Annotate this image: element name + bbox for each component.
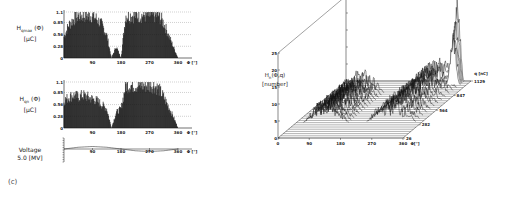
hqn-y-label: Hqn (Φ) [μC] [2, 95, 58, 114]
z-tick-label: 5 [274, 119, 277, 124]
back-diagonal [278, 0, 346, 53]
y-tick-label: 0.56 [53, 102, 63, 107]
surface-chart: 0510152025090180270360Φ[°]26282564847112… [280, 0, 527, 170]
x-axis-label: Φ[°] [410, 141, 419, 146]
x-tick-label: 180 [117, 130, 126, 135]
z-tick-label: 20 [271, 68, 277, 73]
y-axis-label: q [nC] [474, 71, 488, 76]
y-tick-label: 1.1 [56, 10, 63, 15]
x-tick-label: 180 [336, 141, 345, 146]
y-tick-label: 282 [422, 122, 431, 127]
z-tick-label: 10 [271, 102, 277, 107]
y-tick-label: 847 [457, 93, 466, 98]
y-tick-label: 0.28 [53, 44, 63, 49]
x-tick-label: 270 [368, 141, 377, 146]
x-tick-label: 90 [306, 141, 312, 146]
hqn-chart: 00.280.560.851.190180270360Φ [°] [60, 78, 230, 136]
x-tick-label: 270 [145, 130, 154, 135]
y-tick-label: 0.85 [53, 90, 63, 95]
x-tick-label: 360 [174, 130, 183, 135]
x-tick-label: 360 [399, 141, 408, 146]
x-tick-label: 0 [277, 141, 280, 146]
x-tick-label: 270 [145, 149, 154, 154]
x-tick-label: 90 [90, 149, 96, 154]
y-tick-label: 1.1 [56, 80, 63, 85]
hqmax-chart: 00.280.560.851.190180270360Φ [°] [60, 8, 230, 66]
y-tick-label: 564 [439, 108, 448, 113]
y-tick-label: 0 [60, 126, 63, 131]
y-tick-label: 0.28 [53, 114, 63, 119]
x-tick-label: 180 [117, 149, 126, 154]
x-axis-label: Φ [°] [187, 149, 198, 154]
z-tick-label: 25 [271, 51, 277, 56]
y-tick-label: 1129 [474, 79, 485, 84]
y-tick-label: 0.85 [53, 20, 63, 25]
x-axis-label: Φ [°] [187, 130, 198, 135]
x-axis-label: Φ [°] [187, 60, 198, 65]
x-tick-label: 90 [90, 130, 96, 135]
x-tick-label: 360 [174, 149, 183, 154]
y-tick-label: 0.56 [53, 32, 63, 37]
panel-label: (c) [8, 178, 17, 186]
z-tick-label: 15 [271, 85, 277, 90]
y-tick-label: 0 [60, 56, 63, 61]
voltage-plot: 90180270360Φ [°] [60, 138, 230, 168]
hqmax-plot: 00.280.560.851.190180270360Φ [°] [60, 8, 230, 66]
hqmax-y-label: Hqmax (Φ) [μC] [2, 24, 58, 43]
voltage-chart: 90180270360Φ [°] [60, 138, 230, 168]
voltage-y-label: Voltage 5.0 [MV] [2, 146, 58, 162]
surface-plot: 0510152025090180270360Φ[°]26282564847112… [280, 0, 527, 170]
x-tick-label: 270 [145, 60, 154, 65]
x-tick-label: 180 [117, 60, 126, 65]
x-tick-label: 90 [90, 60, 96, 65]
x-tick-label: 360 [174, 60, 183, 65]
hqn-plot: 00.280.560.851.190180270360Φ [°] [60, 78, 230, 136]
y-tick-label: 26 [406, 136, 412, 141]
z-tick-label: 0 [274, 136, 277, 141]
